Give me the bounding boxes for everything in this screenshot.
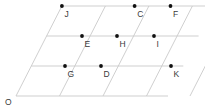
point-label-J: J [65,9,69,19]
point-label-H: H [120,39,126,49]
lattice-figure: JCFEHIGDK O [0,0,205,111]
point-label-K: K [174,69,180,79]
lattice-dot-I [152,34,156,38]
lattice-dot-H [115,34,119,38]
col-3-line [147,6,193,96]
lattice-dot-E [80,34,84,38]
lattice-dot-K [169,64,173,68]
point-label-E: E [85,39,91,49]
col-4-right-edge [190,6,205,96]
lattice-dot-C [133,4,137,8]
point-label-G: G [68,69,75,79]
lattice-diagram: JCFEHIGDK O [0,0,205,111]
point-label-D: D [104,69,110,79]
point-label-C: C [137,9,143,19]
lattice-dot-F [169,4,173,8]
horizontal-grid-lines [16,6,205,96]
lattice-dot-G [63,64,67,68]
lattice-dot-D [99,64,103,68]
point-label-F: F [173,9,178,19]
col-2-line [103,6,149,96]
slanted-grid-lines [16,6,205,96]
lattice-dot-J [60,4,64,8]
origin-marker: O [5,97,12,107]
point-label-I: I [157,39,159,49]
col-0-left-edge [16,6,62,96]
point-labels: JCFEHIGDK [65,9,180,79]
origin-label: O [5,97,12,107]
col-1-line [60,6,106,96]
